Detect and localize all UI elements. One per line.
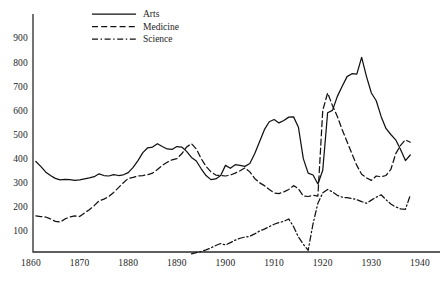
y-tick-label: 500 (13, 130, 28, 140)
line-chart-figure: 100200300400500600700800900 186018701880… (0, 0, 446, 284)
y-axis-tick-labels: 100200300400500600700800900 (13, 33, 28, 236)
x-axis-tick-labels: 186018701880189019001910192019301940 (21, 258, 430, 268)
chart-canvas: 100200300400500600700800900 186018701880… (0, 0, 446, 284)
y-tick-label: 400 (13, 154, 28, 164)
series-line-arts (36, 57, 410, 184)
axis-lines (33, 14, 440, 252)
chart-legend: ArtsMedicineScience (92, 9, 179, 44)
x-tick-label: 1920 (313, 258, 333, 268)
series-line-medicine (36, 93, 410, 222)
x-tick-label: 1910 (264, 258, 284, 268)
y-tick-label: 200 (13, 202, 28, 212)
y-tick-label: 900 (13, 33, 28, 43)
y-tick-label: 600 (13, 106, 28, 116)
legend-label-medicine: Medicine (143, 22, 179, 32)
y-tick-label: 700 (13, 82, 28, 92)
y-tick-label: 100 (13, 226, 28, 236)
y-tick-label: 800 (13, 58, 28, 68)
x-tick-label: 1930 (361, 258, 381, 268)
x-tick-label: 1940 (410, 258, 430, 268)
series-line-science (191, 190, 410, 254)
y-tick-label: 300 (13, 178, 28, 188)
x-tick-label: 1900 (216, 258, 236, 268)
x-tick-label: 1890 (167, 258, 187, 268)
x-tick-label: 1860 (21, 258, 41, 268)
x-tick-label: 1880 (118, 258, 138, 268)
legend-label-science: Science (143, 34, 173, 44)
x-tick-label: 1870 (70, 258, 90, 268)
legend-label-arts: Arts (143, 9, 160, 19)
data-series-group (36, 57, 410, 254)
